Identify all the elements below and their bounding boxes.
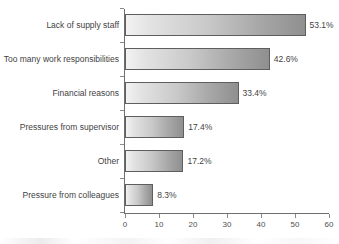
y-axis-tick: [120, 76, 124, 77]
bar: [125, 48, 270, 70]
x-axis-tick: [261, 214, 262, 218]
y-axis-line: [124, 9, 125, 213]
y-axis-tick: [120, 110, 124, 111]
x-axis-tick-label: 30: [215, 220, 239, 230]
bar: [125, 14, 306, 36]
x-axis-tick-label: 60: [317, 220, 339, 230]
y-axis-tick: [120, 8, 124, 9]
bar-value-label: 33.4%: [243, 88, 267, 98]
bar: [125, 82, 239, 104]
x-axis-tick-label: 40: [249, 220, 273, 230]
x-axis-tick-label: 0: [113, 220, 137, 230]
bar-value-label: 53.1%: [310, 20, 334, 30]
bar-value-label: 17.2%: [187, 156, 211, 166]
bar-value-label: 42.6%: [274, 54, 298, 64]
category-label: Other: [0, 156, 119, 166]
x-axis-tick-label: 10: [147, 220, 171, 230]
y-axis-tick: [120, 212, 124, 213]
x-axis-tick: [227, 214, 228, 218]
y-axis-tick: [120, 178, 124, 179]
x-axis-tick: [329, 214, 330, 218]
bar: [125, 150, 183, 172]
y-axis-tick: [120, 42, 124, 43]
x-axis-tick-label: 20: [181, 220, 205, 230]
y-axis-tick: [120, 144, 124, 145]
bar: [125, 184, 153, 206]
x-axis-tick-label: 50: [283, 220, 307, 230]
bar: [125, 116, 184, 138]
bar-chart: 0102030405060Lack of supply staff53.1%To…: [0, 0, 339, 244]
category-label: Lack of supply staff: [0, 20, 119, 30]
bar-value-label: 17.4%: [188, 122, 212, 132]
category-label: Pressure from colleagues: [0, 190, 119, 200]
category-label: Pressures from supervisor: [0, 122, 119, 132]
x-axis-tick: [159, 214, 160, 218]
x-axis-tick: [125, 214, 126, 218]
x-axis-tick: [193, 214, 194, 218]
category-label: Financial reasons: [0, 88, 119, 98]
x-axis-tick: [295, 214, 296, 218]
category-label: Too many work responsibilities: [0, 54, 119, 64]
scan-artifact: [0, 238, 339, 244]
bar-value-label: 8.3%: [157, 190, 176, 200]
